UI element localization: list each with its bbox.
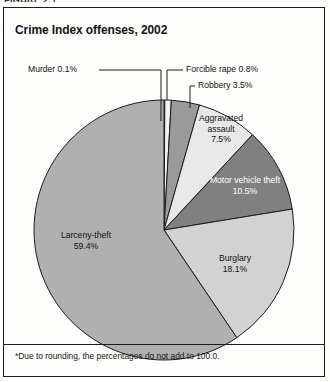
pie-label-forcible-rape: Forcible rape 0.8%: [186, 64, 258, 74]
pie-label-burglary-line2: 18.1%: [202, 264, 268, 275]
pie-label-motor-vehicle-theft-line2: 10.5%: [190, 186, 300, 197]
pie-label-aggravated-assault: Aggravated assault 7.5%: [192, 113, 250, 145]
pie-label-larceny-theft-line2: 59.4%: [40, 241, 132, 252]
pie-label-larceny-theft-line1: Larceny-theft: [40, 230, 132, 241]
footnote-divider: [4, 344, 325, 345]
pie-label-motor-vehicle-theft-line1: Motor vehicle theft: [190, 175, 300, 186]
pie-label-aggravated-assault-line3: 7.5%: [192, 134, 250, 145]
pie-label-burglary-line1: Burglary: [202, 253, 268, 264]
figure-frame: Crime Index offenses, 2002 Murder 0.1% F…: [3, 7, 325, 377]
leader-line-forcible-rape: [167, 70, 183, 100]
pie-label-robbery: Robbery 3.5%: [198, 80, 252, 90]
pie-label-aggravated-assault-line1: Aggravated: [192, 113, 250, 124]
figure-caption: FIGURE 2.1: [4, 0, 57, 2]
pie-chart: Murder 0.1% Forcible rape 0.8% Robbery 3…: [4, 8, 325, 377]
footnote-text: *Due to rounding, the percentages do not…: [15, 351, 219, 361]
pie-label-motor-vehicle-theft: Motor vehicle theft 10.5%: [190, 175, 300, 196]
pie-label-larceny-theft: Larceny-theft 59.4%: [40, 230, 132, 251]
pie-label-burglary: Burglary 18.1%: [202, 253, 268, 274]
pie-label-aggravated-assault-line2: assault: [192, 124, 250, 135]
pie-label-murder: Murder 0.1%: [28, 64, 77, 74]
